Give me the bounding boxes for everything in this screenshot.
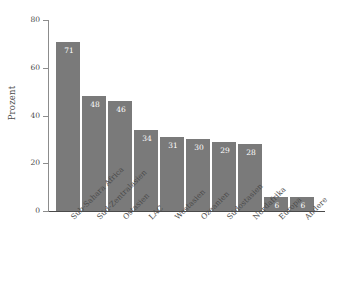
y-axis-tick [43,163,49,164]
bar-value-label: 46 [108,106,134,114]
y-axis-tick-label: 80 [10,16,40,24]
bar-value-label: 31 [160,142,186,150]
bar-value-label: 28 [238,149,264,157]
bar-chart: Prozent 020406080 714846343130292866 Sub… [0,0,346,293]
bar: 71 [55,42,81,212]
bar-group: 6 [263,20,289,211]
bar-value-label: 30 [186,144,212,152]
y-axis-tick [43,68,49,69]
bar-value-label: 34 [134,135,160,143]
y-axis-tick-label: 0 [10,207,40,215]
bar-value-label: 48 [82,101,108,109]
bar-group: 6 [289,20,315,211]
y-axis-tick-label: 40 [10,112,40,120]
y-axis-tick [43,116,49,117]
y-axis-title: Prozent [7,68,17,138]
bar-group: 71 [55,20,81,211]
y-axis-tick-label: 20 [10,159,40,167]
bar-group: 30 [185,20,211,211]
plot-area: 714846343130292866 [55,20,317,211]
bar-value-label: 29 [212,147,238,155]
y-axis-tick [43,211,49,212]
y-axis-tick-label: 60 [10,64,40,72]
y-axis-tick [43,20,49,21]
bar: 31 [159,137,185,211]
bar-value-label: 71 [56,47,82,55]
bar-group: 29 [211,20,237,211]
bar-group: 31 [159,20,185,211]
